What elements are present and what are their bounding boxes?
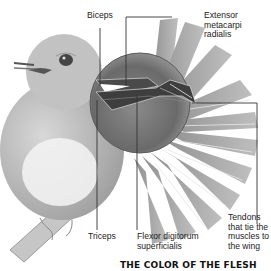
section-heading: THE COLOR OF THE FLESH [120,260,257,270]
wing-anatomy-illustration: Biceps Extensor metacarpi radialis Trice… [0,0,271,271]
label-extensor-metacarpi-radialis: Extensor metacarpi radialis [204,11,242,40]
label-biceps: Biceps [87,11,113,21]
label-flexor-digitorum-superficialis: Flexor digitorum superficialis [137,232,199,251]
label-tendons: Tendons that tie the muscles to the wing [228,213,269,251]
label-triceps: Triceps [88,232,116,242]
